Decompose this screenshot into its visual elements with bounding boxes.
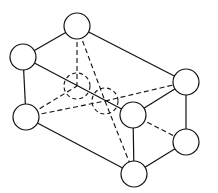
atom-upper-left: [10, 44, 36, 70]
atom-right-upper: [173, 69, 199, 95]
atom-lower-left: [13, 104, 39, 130]
atom-front-middle: [120, 102, 146, 128]
atom-right-lower: [173, 129, 199, 155]
crystal-lattice-diagram: [0, 0, 218, 193]
solid-bond-upper-left-front-middle: [23, 57, 133, 115]
solid-bond-lower-left-bottom: [26, 117, 134, 174]
solid-bonds: [23, 26, 186, 174]
solid-bond-top-right-upper: [77, 26, 186, 82]
atom-bottom: [121, 161, 147, 187]
dashed-bonds: [26, 26, 186, 174]
atom-top: [64, 13, 90, 39]
